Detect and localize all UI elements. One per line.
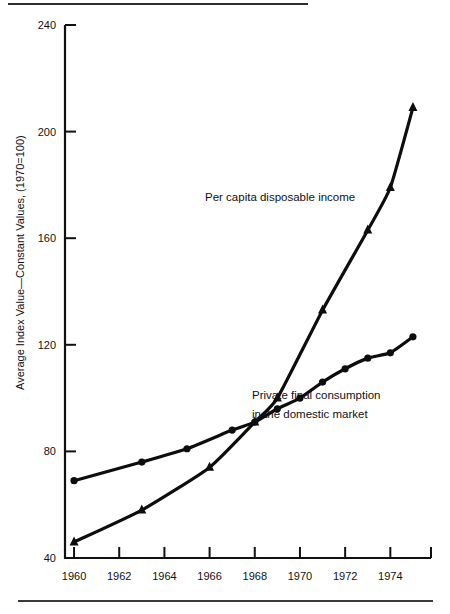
y-tick-label: 120 (38, 339, 56, 351)
series-line-1 (74, 108, 413, 542)
data-point-marker (409, 333, 416, 340)
x-tick-label: 1964 (152, 570, 176, 582)
y-tick-label: 40 (44, 552, 56, 564)
x-tick-label: 1968 (243, 570, 267, 582)
x-tick-label: 1970 (288, 570, 312, 582)
y-axis-title-text: Average Index Value—Constant Values, (19… (14, 135, 26, 390)
annotation-private-consumption-line2: in the domestic market (252, 408, 368, 420)
x-axis-ticks: 19601962196419661968197019721974 (62, 547, 431, 582)
data-series (70, 102, 418, 545)
annotation-disposable-income: Per capita disposable income (205, 191, 355, 203)
axis-lines (65, 25, 431, 558)
line-chart: 4080120160200240 19601962196419661968197… (0, 0, 450, 614)
data-point-marker (183, 445, 190, 452)
x-tick-label: 1962 (107, 570, 131, 582)
y-axis-ticks: 4080120160200240 (38, 19, 76, 564)
data-point-marker (364, 355, 371, 362)
y-tick-label: 80 (44, 445, 56, 457)
data-point-marker (408, 102, 417, 111)
data-point-marker (342, 365, 349, 372)
data-point-marker (387, 349, 394, 356)
chart-figure: 4080120160200240 19601962196419661968197… (0, 0, 450, 614)
top-divider-rule (8, 3, 308, 5)
y-axis-title: Average Index Value—Constant Values, (19… (14, 135, 26, 390)
axes (65, 25, 431, 558)
y-tick-label: 160 (38, 232, 56, 244)
data-point-marker (138, 458, 145, 465)
y-tick-label: 240 (38, 19, 56, 31)
series-annotations: Per capita disposable incomePrivate fina… (205, 191, 380, 420)
data-point-marker (319, 379, 326, 386)
x-tick-label: 1972 (333, 570, 357, 582)
data-point-marker (70, 477, 77, 484)
data-point-marker (386, 182, 395, 191)
y-tick-label: 200 (38, 126, 56, 138)
data-point-marker (229, 426, 236, 433)
x-tick-label: 1974 (378, 570, 402, 582)
annotation-private-consumption: Private final consumption (252, 389, 380, 401)
bottom-divider-rule (18, 600, 433, 602)
x-tick-label: 1966 (197, 570, 221, 582)
x-tick-label: 1960 (62, 570, 86, 582)
